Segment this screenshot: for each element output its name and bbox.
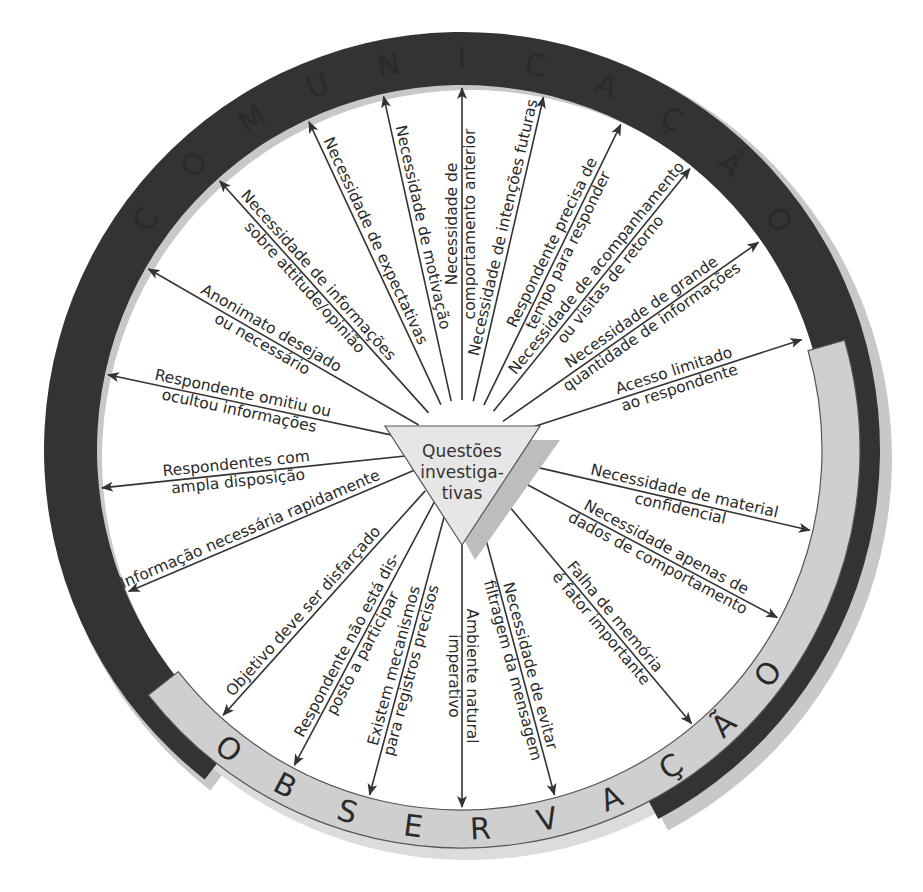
ring-letter: I <box>458 41 467 76</box>
center-label-line-2: investiga- <box>420 462 504 482</box>
center-label-line-3: tivas <box>442 483 483 503</box>
center-node: Questões investiga- tivas <box>385 426 560 560</box>
factor-label-c1: Necessidade decomportamento anterior <box>443 128 479 319</box>
factor-label-o6: Ambiente naturalimperativo <box>445 608 481 743</box>
factor-label-line: Necessidade de <box>443 163 461 286</box>
factor-label-line: comportamento anterior <box>461 128 479 319</box>
factor-label-o5: Necessidade de evitarfiltragem da mensag… <box>480 573 563 762</box>
factor-label-line: Ambiente natural <box>463 608 481 743</box>
factor-label-o4: Falha de memóriaé fator importante <box>548 556 667 688</box>
ring-letter: R <box>469 811 492 847</box>
center-label-line-1: Questões <box>422 441 502 461</box>
factor-label-o1: Acesso limitadoao respondente <box>613 343 740 415</box>
factor-label-line: imperativo <box>445 634 463 718</box>
factor-label-c7: Respondentes comampla disposição <box>162 447 313 498</box>
research-questions-diagram: COMUNICAÇÃO OBSERVAÇÃO Necessidade decom… <box>0 0 923 892</box>
